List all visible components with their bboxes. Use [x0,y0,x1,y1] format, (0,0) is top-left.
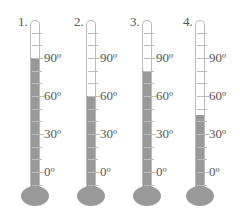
tick-mark [88,121,98,122]
tick-mark [197,134,209,135]
tick-mark [144,159,154,160]
tick-mark [197,83,207,84]
tick-mark [144,121,154,122]
tick-mark [144,58,156,59]
tick-mark [144,172,156,173]
tick-mark [197,147,207,148]
thermometer-bulb [186,186,214,206]
tick-mark [144,147,154,148]
thermometer-bulb [77,186,105,206]
tick-mark [197,109,207,110]
scale-label-60: 60º [100,89,117,102]
tick-mark [88,33,98,34]
scale-label-0: 0º [156,165,167,178]
scale-label-90: 90º [209,51,226,64]
tick-mark [88,109,98,110]
scale-label-30: 30º [100,127,117,140]
tick-mark [88,96,100,97]
scale-label-30: 30º [209,127,226,140]
tick-mark [88,58,100,59]
scale-label-30: 30º [156,127,173,140]
tick-mark [88,45,98,46]
tick-mark [144,134,156,135]
mercury-fill [196,115,204,192]
scale-label-60: 60º [209,89,226,102]
thermometer-bulb [133,186,161,206]
scale-label-60: 60º [156,89,173,102]
tick-mark [197,159,207,160]
mercury-fill [87,96,95,192]
tick-mark [144,71,154,72]
scale-label-0: 0º [209,165,220,178]
tick-mark [88,172,100,173]
thermometer-4: 4.90º60º30º0º [0,0,60,222]
thermometer-number: 3. [130,14,140,30]
tick-mark [88,83,98,84]
tick-mark [197,45,207,46]
tick-mark [88,159,98,160]
scale-label-0: 0º [100,165,111,178]
tick-mark [144,83,154,84]
scale-label-90: 90º [100,51,117,64]
tick-mark [197,33,207,34]
tick-mark [197,172,209,173]
tick-mark [144,45,154,46]
tick-mark [144,109,154,110]
tick-mark [88,71,98,72]
tick-mark [144,33,154,34]
tick-mark [88,134,100,135]
tick-mark [88,147,98,148]
thermometer-number: 2. [74,14,84,30]
tick-mark [197,58,209,59]
mercury-fill [143,71,151,192]
tick-mark [197,71,207,72]
thermometer-number: 4. [183,14,193,30]
tick-mark [197,96,209,97]
scale-label-90: 90º [156,51,173,64]
tick-mark [144,96,156,97]
tick-mark [197,121,207,122]
